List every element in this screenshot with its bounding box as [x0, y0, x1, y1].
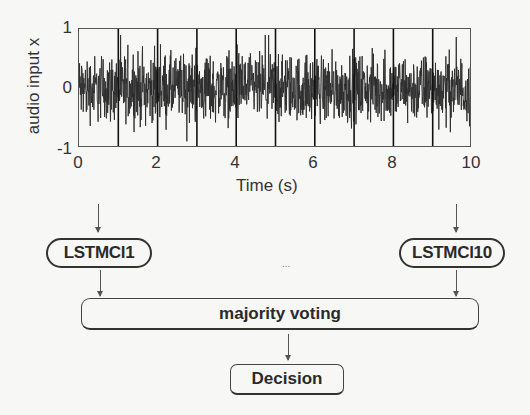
x-tick-2: 2 — [141, 153, 171, 173]
majority-voting-box: majority voting — [81, 298, 479, 330]
classifier-lstmcl10: LSTMCl10 — [399, 238, 505, 268]
y-tick-0: 0 — [42, 78, 72, 98]
arrow-lstmcl1-to-voting — [100, 270, 101, 296]
x-tick-6: 6 — [298, 153, 328, 173]
classifier-lstmcl1: LSTMCl1 — [46, 238, 152, 268]
waveform-plot — [78, 28, 471, 147]
y-axis-label: audio input x — [24, 31, 44, 141]
x-tick-4: 4 — [220, 153, 250, 173]
ellipsis: ... — [282, 258, 290, 269]
x-tick-8: 8 — [377, 153, 407, 173]
waveform-line — [79, 29, 471, 147]
decision-box: Decision — [230, 364, 344, 395]
arrow-to-lstmcl10 — [456, 204, 457, 232]
y-tick-1: 1 — [42, 18, 72, 38]
x-tick-0: 0 — [63, 153, 93, 173]
arrow-lstmcl10-to-voting — [456, 270, 457, 296]
x-tick-10: 10 — [456, 153, 486, 173]
arrow-voting-to-decision — [288, 334, 289, 360]
x-axis-label: Time (s) — [236, 176, 298, 196]
arrow-to-lstmcl1 — [98, 204, 99, 232]
